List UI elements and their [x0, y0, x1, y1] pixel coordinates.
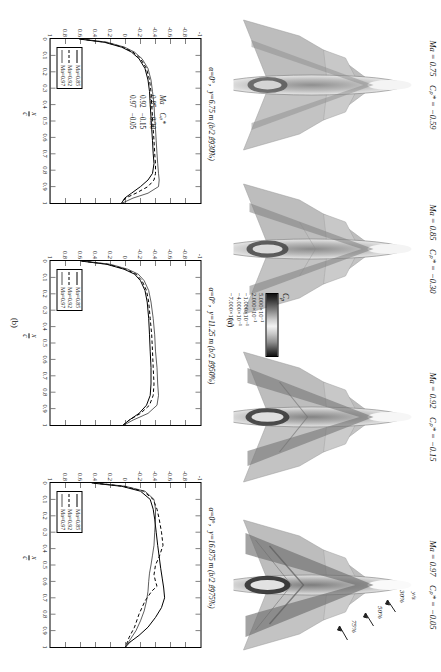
callout-50pct: 50% [375, 606, 383, 619]
plot-panel-3-axes: -1 -0.8 -0.6 -0.4 -0.2 0 0.2 0.4 0.6 0.8… [49, 482, 201, 648]
plot1-legend-item-1[interactable]: Ma=0.92 [65, 50, 72, 86]
plot2-legend-label-0: Ma=0.85 [72, 287, 79, 308]
aircraft-case-3-mach: Ma = 0.92 [427, 372, 437, 408]
plot3-legend-item-0[interactable]: Ma=0.85 [72, 494, 79, 530]
plot3-xtick-1: 0.1 [41, 495, 48, 503]
plot2-xtick-10: 1 [41, 423, 48, 426]
cp-table-r2c1: −0.05 [126, 113, 136, 135]
colorbar-tick-2: −1.000×10⁻¹ [242, 293, 249, 326]
plot1-legend[interactable]: Ma=0.85 Ma=0.92 Ma=0.97 [56, 47, 82, 89]
plot1-ytick-0: -1 [197, 32, 204, 37]
plot-panel-3: α=0°，y=16.875 m (b/2 的75%) [3, 452, 219, 664]
plot2-ytick-3: -0.4 [152, 249, 159, 259]
cp-table-r0c0: 0.85 [146, 95, 156, 113]
plot1-xtick-3: 0.3 [41, 84, 48, 92]
colorbar-title-subscript: p [280, 298, 286, 301]
plot3-xtick-10: 1 [41, 645, 48, 648]
plot-panel-3-title: α=0°，y=16.875 m (b/2 的75%) [206, 452, 217, 664]
plot1-legend-item-0[interactable]: Ma=0.85 [72, 50, 79, 86]
aircraft-case-4-cp: Cₚ* = −0.05 [427, 585, 437, 630]
plot1-xaxis-den: c [20, 111, 28, 116]
plot2-xtick-2: 0.2 [41, 290, 48, 298]
plot1-ytick-1: -0.8 [182, 27, 189, 37]
cp-table-r1c1: −0.15 [136, 113, 146, 135]
aircraft-case-4-mach: Ma = 0.97 [427, 540, 437, 576]
aircraft-case-2-caption: Ma = 0.85 Cₚ* = −0.30 [427, 170, 437, 328]
plot2-ytick-8: 0.6 [77, 251, 84, 259]
plot3-ytick-1: -0.8 [182, 471, 189, 481]
plot3-ytick-3: -0.4 [152, 471, 159, 481]
plot2-ytick-5: 0 [122, 256, 129, 259]
plot2-legend-item-0[interactable]: Ma=0.85 [72, 272, 79, 308]
aircraft-case-3-cp: Cₚ* = −0.15 [427, 417, 437, 462]
plot1-ytick-4: -0.2 [137, 27, 144, 37]
legend-line-dashed-icon [68, 50, 69, 63]
plot2-xtick-9: 0.9 [41, 405, 48, 413]
plot-panel-2-axes: -1 -0.8 -0.6 -0.4 -0.2 0 0.2 0.4 0.6 0.8… [49, 260, 201, 426]
plot2-ytick-7: 0.4 [92, 251, 99, 259]
legend-line-solid-icon [76, 50, 77, 63]
plot1-legend-label-1: Ma=0.92 [65, 65, 72, 86]
legend-line-thin-icon [61, 50, 62, 63]
colorbar-legend: Cp 5.000×10⁻¹ 2.000×10⁻¹ −1.000×10⁻¹ −4.… [223, 293, 289, 389]
plot2-ytick-0: -1 [197, 254, 204, 259]
plot1-xaxis-label: x c [20, 111, 37, 116]
plot3-ytick-9: 0.8 [62, 473, 69, 481]
aircraft-case-1-caption: Ma = 0.75 Cₚ* = −0.59 [427, 6, 437, 164]
aircraft-contour-4 [233, 506, 419, 664]
table-row: 0.92 −0.15 [136, 95, 146, 134]
figure-root: Ma = 0.75 Cₚ* = −0.59 [0, 0, 441, 672]
cp-table-r0c1: −0.30 [146, 113, 156, 135]
plot1-legend-item-2[interactable]: Ma=0.97 [58, 50, 65, 86]
aircraft-case-4-caption: Ma = 0.97 Cₚ* = −0.05 [427, 506, 437, 664]
plot1-ytick-5: 0 [122, 34, 129, 37]
plot-panel-2: α=0°，y=11.25 m (b/2 的50%) [3, 230, 219, 442]
cp-star-table: Ma Cₚ* 0.85 −0.30 0.92 −0.15 0.97 [126, 95, 166, 134]
plot2-legend-item-2[interactable]: Ma=0.97 [58, 272, 65, 308]
plot-panel-2-title: α=0°，y=11.25 m (b/2 的50%) [206, 230, 217, 442]
colorbar-tick-0: 5.000×10⁻¹ [257, 293, 264, 326]
plot3-ytick-4: -0.2 [137, 471, 144, 481]
plot3-ytick-0: -1 [197, 476, 204, 481]
plot3-legend-item-1[interactable]: Ma=0.92 [65, 494, 72, 530]
callout-30pct: 30% [397, 590, 405, 603]
figure-rotation-wrapper: Ma = 0.75 Cₚ* = −0.59 [0, 0, 441, 672]
plot1-xtick-2: 0.2 [41, 68, 48, 76]
plot3-legend-label-0: Ma=0.85 [72, 509, 79, 530]
plot1-xtick-1: 0.1 [41, 51, 48, 59]
plot3-xtick-0: 0 [41, 481, 48, 484]
plot2-xtick-4: 0.4 [41, 323, 48, 331]
plot3-ytick-8: 0.6 [77, 473, 84, 481]
plot-panel-1-title: α=0°，y=6.75 m (b/2 的30%) [206, 8, 217, 220]
plot2-legend-item-1[interactable]: Ma=0.92 [65, 272, 72, 308]
plot1-ytick-6: 0.2 [107, 29, 114, 37]
aircraft-case-3-caption: Ma = 0.92 Cₚ* = −0.15 [427, 338, 437, 496]
cp-table-r2c0: 0.97 [126, 95, 136, 113]
plot2-legend[interactable]: Ma=0.85 Ma=0.92 Ma=0.97 [56, 269, 82, 311]
plot2-ytick-1: -0.8 [182, 249, 189, 259]
plot1-ytick-9: 0.8 [62, 29, 69, 37]
cp-table-header-cp: Cₚ* [156, 113, 166, 135]
plot3-xtick-7: 0.7 [41, 594, 48, 602]
legend-line-thin-icon [61, 272, 62, 285]
aircraft-case-1-mach: Ma = 0.75 [427, 40, 437, 76]
plot3-xtick-9: 0.9 [41, 627, 48, 635]
legend-line-solid-icon [76, 494, 77, 507]
plot3-legend-label-1: Ma=0.92 [65, 509, 72, 530]
plot3-legend[interactable]: Ma=0.85 Ma=0.92 Ma=0.97 [56, 491, 82, 533]
plot3-xtick-6: 0.6 [41, 577, 48, 585]
plot2-ytick-4: -0.2 [137, 249, 144, 259]
colorbar-gradient [265, 293, 278, 357]
plot1-xtick-0: 0 [41, 37, 48, 40]
plot3-ytick-5: 0 [122, 478, 129, 481]
legend-line-thin-icon [61, 494, 62, 507]
plot1-ytick-2: -0.6 [167, 27, 174, 37]
plot2-xtick-3: 0.3 [41, 306, 48, 314]
cp-table-r1c0: 0.92 [136, 95, 146, 113]
plot3-ytick-6: 0.2 [107, 473, 114, 481]
plot3-legend-item-2[interactable]: Ma=0.97 [58, 494, 65, 530]
plot1-xtick-10: 1 [41, 201, 48, 204]
plot2-xtick-8: 0.8 [41, 388, 48, 396]
plot1-xtick-4: 0.4 [41, 101, 48, 109]
subfigure-b-label: (b) [9, 318, 19, 328]
